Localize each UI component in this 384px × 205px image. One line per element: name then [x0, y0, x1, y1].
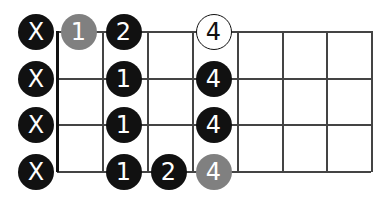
- finger-dot: 2: [106, 14, 142, 50]
- fret-line: [192, 31, 194, 172]
- finger-dot: 4: [196, 61, 232, 97]
- finger-dot: 4: [196, 107, 232, 143]
- muted-string-marker: X: [18, 14, 54, 50]
- fret-line: [371, 31, 373, 172]
- finger-dot: 1: [106, 154, 142, 190]
- finger-dot: 4: [196, 154, 232, 190]
- finger-dot: 1: [106, 107, 142, 143]
- fret-line: [102, 31, 104, 172]
- muted-string-marker: X: [18, 61, 54, 97]
- fret-line: [237, 31, 239, 172]
- nut-line: [56, 31, 59, 172]
- muted-string-marker: X: [18, 154, 54, 190]
- fretboard-diagram: XXXX1241414124: [0, 0, 384, 205]
- muted-string-marker: X: [18, 107, 54, 143]
- finger-dot: 2: [151, 154, 187, 190]
- finger-dot: 1: [61, 14, 97, 50]
- fret-line: [147, 31, 149, 172]
- fret-line: [282, 31, 284, 172]
- finger-dot: 1: [106, 61, 142, 97]
- fret-line: [326, 31, 328, 172]
- finger-dot: 4: [196, 14, 232, 50]
